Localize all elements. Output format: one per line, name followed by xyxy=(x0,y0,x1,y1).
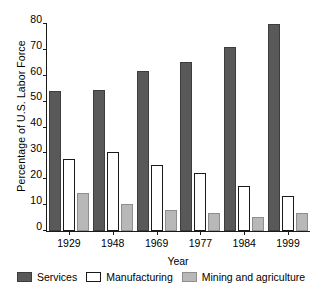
bar-group-1969: 1969 xyxy=(135,24,179,231)
x-tick-mark xyxy=(157,231,158,235)
bar-services-1977 xyxy=(180,62,192,231)
bar-chart-figure: Percentage of U.S. Labor Force 010203040… xyxy=(0,0,322,297)
bar-manufacturing-1929 xyxy=(63,159,75,231)
legend-label-mining: Mining and agriculture xyxy=(202,272,305,283)
bar-group-1977: 1977 xyxy=(178,24,222,231)
x-tick-label-1984: 1984 xyxy=(233,238,256,249)
x-tick-label-1999: 1999 xyxy=(276,238,299,249)
y-tick-label: 40 xyxy=(30,117,42,128)
y-tick-label: 30 xyxy=(30,143,42,154)
chart-legend: ServicesManufacturingMining and agricult… xyxy=(0,272,322,283)
legend-label-services: Services xyxy=(37,272,77,283)
bar-group-1984: 1984 xyxy=(222,24,266,231)
bar-groups: 192919481969197719841999 xyxy=(47,24,310,231)
y-tick-label: 10 xyxy=(30,195,42,206)
bar-mining-1999 xyxy=(296,213,308,231)
bar-group-1929: 1929 xyxy=(47,24,91,231)
bar-group-1999: 1999 xyxy=(266,24,310,231)
x-tick-mark xyxy=(244,231,245,235)
bar-manufacturing-1977 xyxy=(194,173,206,231)
legend-label-manufacturing: Manufacturing xyxy=(106,272,173,283)
bar-services-1929 xyxy=(49,91,61,231)
legend-swatch-mining xyxy=(182,272,197,282)
bar-manufacturing-1948 xyxy=(107,152,119,231)
legend-item-services: Services xyxy=(17,272,77,283)
bar-services-1948 xyxy=(93,90,105,231)
y-tick-label: 80 xyxy=(30,14,42,25)
x-axis-title: Year xyxy=(46,256,310,267)
y-axis-title: Percentage of U.S. Labor Force xyxy=(14,0,28,232)
x-tick-mark xyxy=(288,231,289,235)
legend-swatch-services xyxy=(17,272,32,282)
bar-mining-1984 xyxy=(252,217,264,231)
x-tick-label-1929: 1929 xyxy=(57,238,80,249)
x-tick-mark xyxy=(200,231,201,235)
y-tick-label: 50 xyxy=(30,91,42,102)
bar-services-1984 xyxy=(224,47,236,231)
y-tick-label: 60 xyxy=(30,65,42,76)
bar-mining-1948 xyxy=(121,204,133,231)
y-tick-label: 20 xyxy=(30,169,42,180)
x-tick-label-1948: 1948 xyxy=(101,238,124,249)
bar-manufacturing-1969 xyxy=(151,165,163,231)
legend-swatch-manufacturing xyxy=(86,272,101,282)
bar-manufacturing-1984 xyxy=(238,186,250,231)
legend-item-manufacturing: Manufacturing xyxy=(86,272,173,283)
y-tick-label: 70 xyxy=(30,39,42,50)
bar-services-1969 xyxy=(137,71,149,231)
bar-manufacturing-1999 xyxy=(282,196,294,231)
bar-mining-1969 xyxy=(165,210,177,231)
bar-services-1999 xyxy=(268,24,280,231)
x-tick-mark xyxy=(69,231,70,235)
bar-mining-1929 xyxy=(77,193,89,231)
legend-item-mining: Mining and agriculture xyxy=(182,272,305,283)
x-tick-label-1969: 1969 xyxy=(145,238,168,249)
x-tick-mark xyxy=(113,231,114,235)
y-tick-label: 0 xyxy=(36,221,42,232)
plot-area: 01020304050607080 1929194819691977198419… xyxy=(46,24,310,232)
bar-group-1948: 1948 xyxy=(91,24,135,231)
bar-mining-1977 xyxy=(208,213,220,231)
x-tick-label-1977: 1977 xyxy=(189,238,212,249)
